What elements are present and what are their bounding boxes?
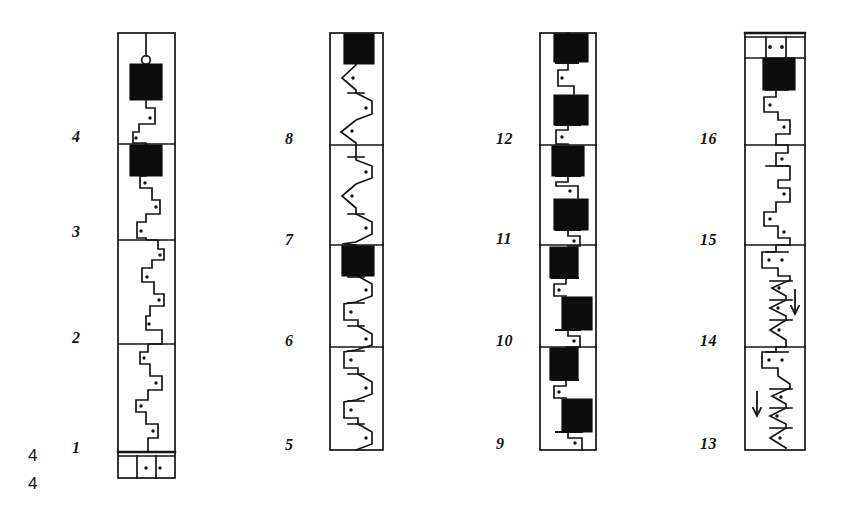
column-1-black-block-2 xyxy=(130,145,162,176)
section-label-10: 10 xyxy=(496,333,513,349)
column-4-blocks xyxy=(763,58,795,90)
core-log-figure: 4 4 4 3 2 1 8 7 6 5 12 11 10 9 16 15 14 … xyxy=(0,0,843,515)
column-3-black-block-1 xyxy=(554,34,588,62)
section-label-7: 7 xyxy=(285,232,294,248)
column-2-black-block-1 xyxy=(344,34,374,64)
column-4-trace xyxy=(762,90,790,448)
section-label-9: 9 xyxy=(496,436,505,452)
column-4-arrow-2 xyxy=(753,392,761,416)
section-label-16: 16 xyxy=(700,131,717,147)
column-4-group xyxy=(745,33,805,450)
section-label-14: 14 xyxy=(700,333,717,349)
section-label-1: 1 xyxy=(72,440,81,456)
section-label-5: 5 xyxy=(285,437,294,453)
column-4-dots xyxy=(767,45,785,440)
column-2-group xyxy=(330,33,383,450)
section-label-12: 12 xyxy=(496,131,513,147)
section-label-4: 4 xyxy=(72,129,81,145)
section-label-8: 8 xyxy=(285,131,294,147)
corner-label-1: 4 xyxy=(28,447,37,464)
section-label-2: 2 xyxy=(72,330,81,346)
column-3-black-block-5 xyxy=(550,247,578,278)
column-3-black-block-2 xyxy=(554,95,588,125)
section-label-6: 6 xyxy=(285,333,294,349)
column-3-blocks xyxy=(550,34,592,432)
column-4-arrow-1 xyxy=(791,290,799,314)
column-1-black-block-1 xyxy=(130,64,162,100)
corner-label-2: 4 xyxy=(28,475,37,492)
column-3-black-block-4 xyxy=(554,199,588,230)
section-label-11: 11 xyxy=(496,231,512,247)
column-3-black-block-8 xyxy=(562,399,592,432)
column-3-black-block-6 xyxy=(562,297,592,330)
section-label-15: 15 xyxy=(700,232,717,248)
column-2-blocks xyxy=(342,34,374,276)
column-4-black-block-1 xyxy=(763,58,795,90)
column-3-black-block-3 xyxy=(552,146,584,176)
section-label-13: 13 xyxy=(700,436,717,452)
column-1-blocks xyxy=(130,64,162,176)
column-2-black-block-2 xyxy=(342,246,374,276)
column-4-frame xyxy=(745,33,805,450)
column-3-black-block-7 xyxy=(550,348,578,380)
column-1-hanger-ring xyxy=(142,56,151,65)
section-label-3: 3 xyxy=(72,224,81,240)
